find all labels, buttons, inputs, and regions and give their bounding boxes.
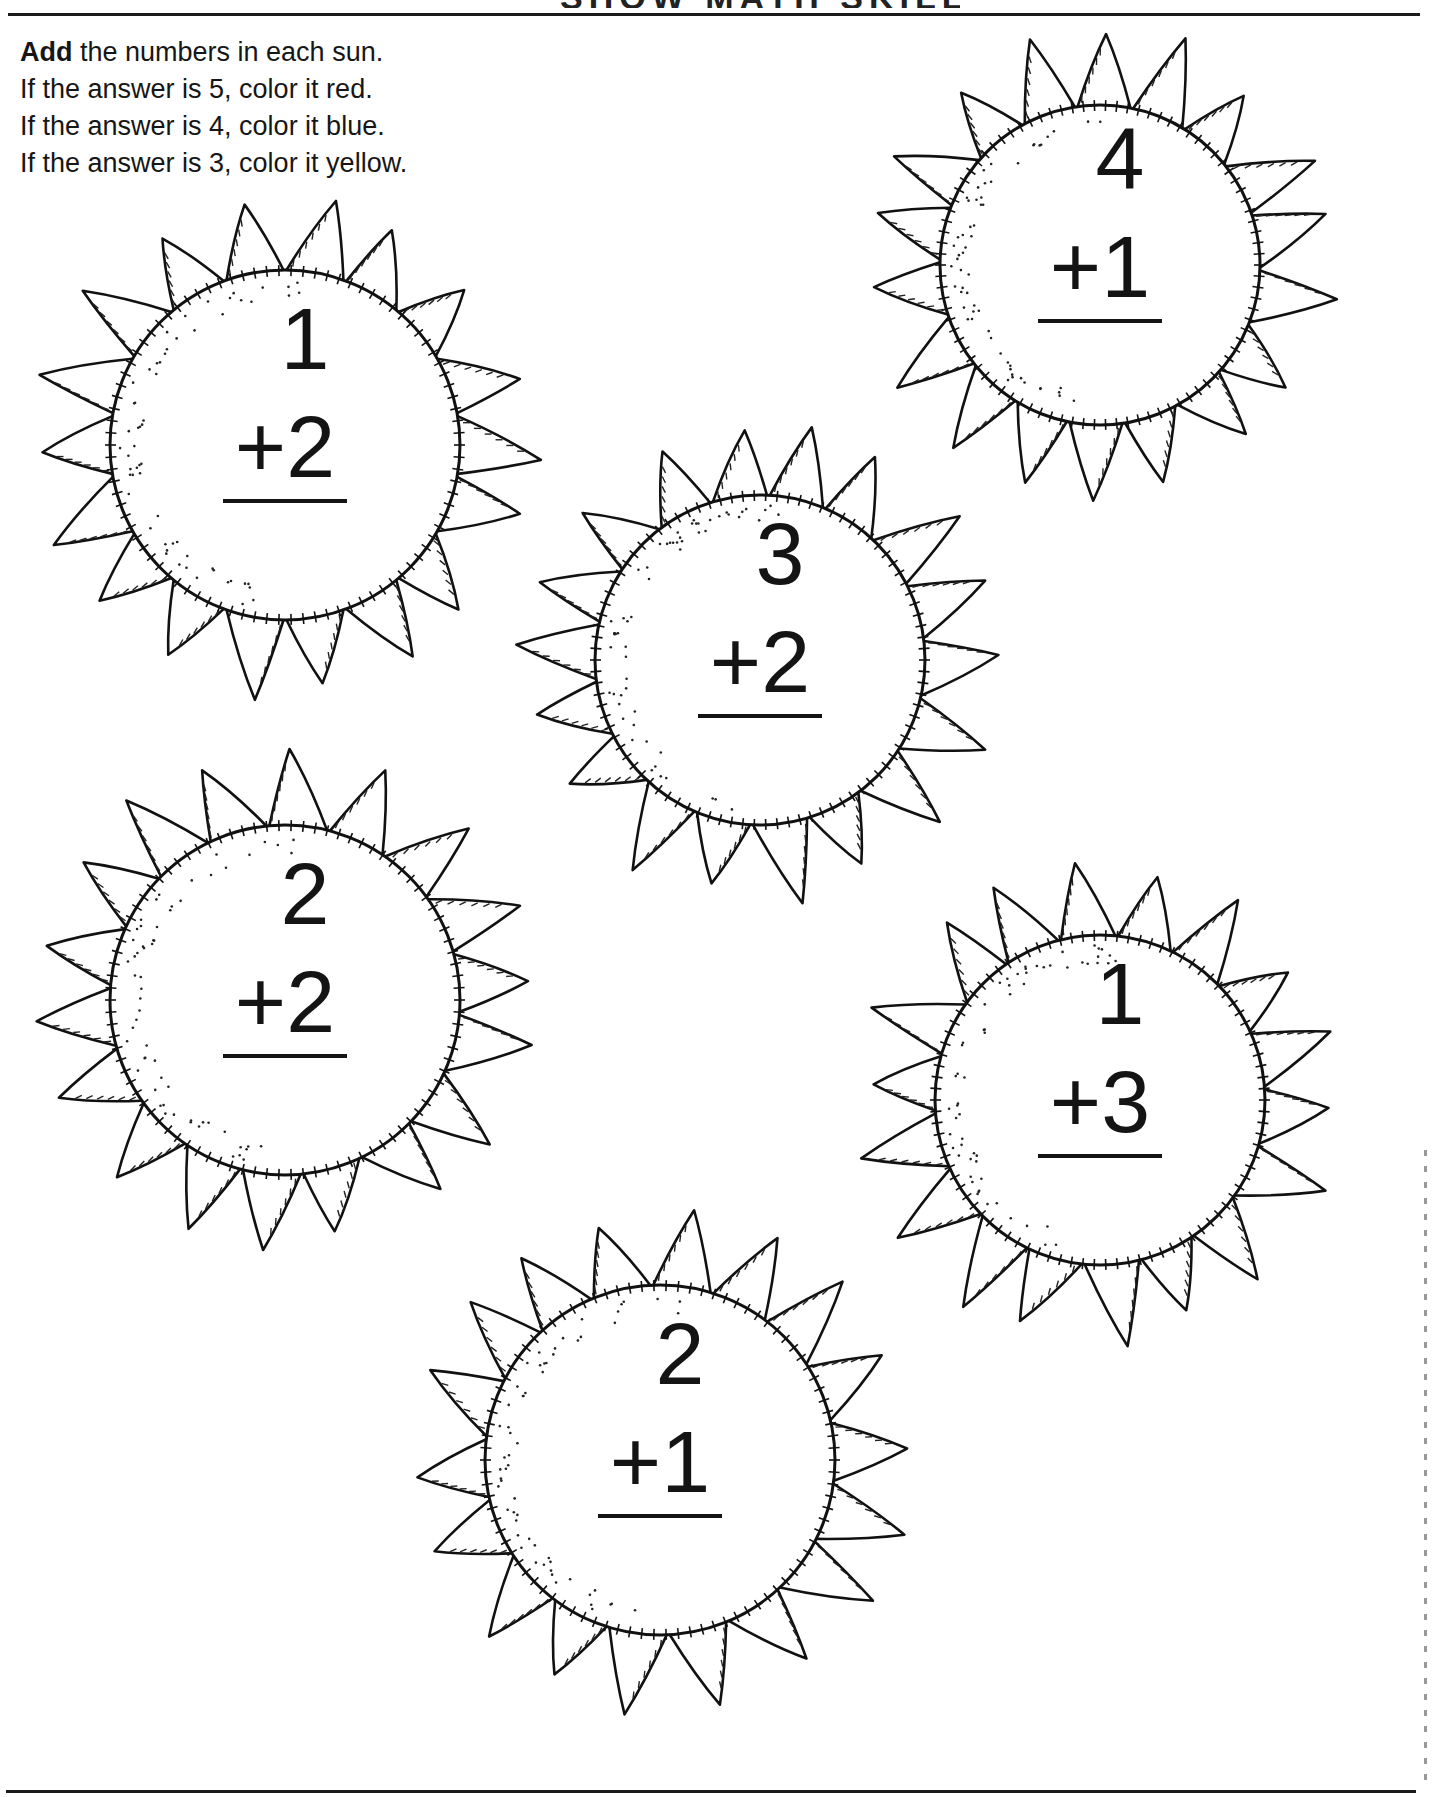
sun-ray <box>43 416 113 474</box>
addend-bottom: +2 <box>675 618 845 706</box>
sun-ray <box>609 1628 666 1715</box>
page-edge-marks <box>1424 1150 1427 1790</box>
sun-ray <box>1078 34 1131 108</box>
addend-bottom: +1 <box>575 1418 745 1506</box>
footer-divider <box>6 1790 1416 1793</box>
sun-ray <box>713 430 767 501</box>
sun-ray <box>874 1056 941 1110</box>
sum-underline <box>598 1514 722 1518</box>
addend-top: 4 <box>1015 115 1185 203</box>
addend-top: 1 <box>200 295 370 383</box>
sun-ray <box>287 201 344 280</box>
addend-bottom: +2 <box>200 958 370 1046</box>
sun-ray <box>454 954 528 1011</box>
addend-bottom: +2 <box>200 403 370 491</box>
sun-ray <box>227 610 284 700</box>
addend-top: 1 <box>1015 950 1185 1038</box>
sun-ray <box>1259 1089 1328 1143</box>
sun-ray <box>1085 1260 1139 1346</box>
sun-ray <box>269 749 327 830</box>
sun-problem: 2+1 <box>575 1310 745 1518</box>
sun-problem: 1+2 <box>200 295 370 503</box>
sun-ray <box>1249 270 1336 322</box>
sun-ray <box>831 1423 907 1481</box>
sum-underline <box>223 499 347 503</box>
sum-underline <box>698 714 822 718</box>
sun-ray <box>516 625 599 679</box>
sun-ray <box>227 205 284 280</box>
addend-bottom: +1 <box>1015 223 1185 311</box>
sun-ray <box>37 988 116 1045</box>
sum-underline <box>1038 319 1162 323</box>
sun-ray <box>921 641 998 695</box>
sun-ray <box>653 1210 710 1292</box>
addend-top: 3 <box>675 510 845 598</box>
sun-problem: 1+3 <box>1015 950 1185 1158</box>
sun-problem: 4+1 <box>1015 115 1185 323</box>
sun-ray <box>417 1439 488 1497</box>
sun-problem: 2+2 <box>200 850 370 1058</box>
sun-problem: 3+2 <box>675 510 845 718</box>
sum-underline <box>1038 1154 1162 1158</box>
addend-bottom: +3 <box>1015 1058 1185 1146</box>
sun-ray <box>753 818 807 903</box>
sun-ray <box>243 1170 301 1250</box>
sun-ray <box>458 416 541 474</box>
sum-underline <box>223 1054 347 1058</box>
addend-top: 2 <box>200 850 370 938</box>
sun-ray <box>1252 214 1325 268</box>
addend-top: 2 <box>575 1310 745 1398</box>
sun-ray <box>1070 422 1123 501</box>
